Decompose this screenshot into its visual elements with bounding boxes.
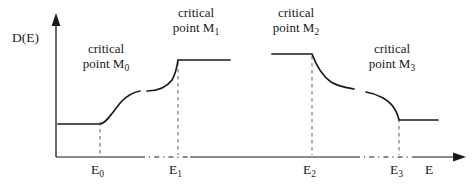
tick-label-E0-base: E: [91, 162, 99, 177]
annotation-M2-line1: critical: [257, 6, 335, 21]
density-of-states-figure: D(E) E E0 E1 E2 E3 critical point M0 cri…: [0, 0, 475, 193]
annotation-M0-line2: point M0: [67, 57, 145, 73]
y-axis-label: D(E): [12, 30, 39, 45]
tick-label-E1: E1: [169, 162, 182, 179]
annotation-critical-point-M0: critical point M0: [67, 42, 145, 73]
energy-axis: [56, 153, 466, 162]
tick-label-E3-subscript: 3: [398, 169, 403, 179]
x-axis-label: E: [425, 162, 433, 177]
tick-label-E2-base: E: [303, 162, 311, 177]
annotation-M1-line1: critical: [157, 6, 235, 21]
curve-branch-M0: [58, 91, 140, 124]
tick-label-E3: E3: [390, 162, 403, 179]
tick-label-E3-base: E: [390, 162, 398, 177]
annotation-critical-point-M1: critical point M1: [157, 6, 235, 37]
annotation-M1-subscript: 1: [214, 26, 219, 36]
figure-canvas: [0, 0, 475, 193]
annotation-M2-subscript: 2: [314, 26, 319, 36]
annotation-M0-line1: critical: [67, 42, 145, 57]
annotation-M3-subscript: 3: [410, 62, 415, 72]
annotation-M1-line2: point M1: [157, 21, 235, 37]
tick-label-E1-subscript: 1: [177, 169, 182, 179]
annotation-M3-line1: critical: [353, 42, 431, 57]
annotation-M0-subscript: 0: [124, 62, 129, 72]
tick-label-E0-subscript: 0: [99, 169, 104, 179]
curve-branch-M1: [147, 60, 230, 91]
annotation-M2-line2: point M2: [257, 21, 335, 37]
annotation-M3-line2: point M3: [353, 57, 431, 73]
curve-branch-M3: [366, 92, 438, 120]
tick-label-E2: E2: [303, 162, 316, 179]
annotation-critical-point-M3: critical point M3: [353, 42, 431, 73]
tick-label-E1-base: E: [169, 162, 177, 177]
tick-label-E0: E0: [91, 162, 104, 179]
tick-label-E2-subscript: 2: [311, 169, 316, 179]
annotation-critical-point-M2: critical point M2: [257, 6, 335, 37]
curve-branch-M2: [272, 54, 354, 89]
density-of-states-axis: [52, 13, 61, 157]
